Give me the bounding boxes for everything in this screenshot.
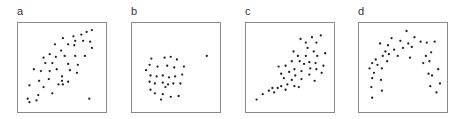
data-point bbox=[426, 41, 428, 43]
data-point bbox=[28, 84, 30, 86]
data-point bbox=[76, 72, 78, 74]
data-point bbox=[402, 47, 404, 49]
data-point bbox=[388, 53, 390, 55]
data-point bbox=[384, 50, 386, 52]
panel-label-d: d bbox=[358, 6, 364, 17]
panel-label-a: a bbox=[17, 6, 23, 17]
data-point bbox=[309, 67, 311, 69]
panel-label-c: c bbox=[245, 6, 251, 17]
data-point bbox=[379, 42, 381, 44]
data-point bbox=[429, 85, 431, 87]
data-point bbox=[381, 67, 383, 69]
scatter-panel-d: d bbox=[358, 0, 458, 119]
data-point bbox=[49, 53, 51, 55]
data-point bbox=[73, 44, 75, 46]
data-point bbox=[284, 89, 286, 91]
data-point bbox=[51, 62, 53, 64]
scatter-panel-a: a bbox=[17, 0, 117, 119]
data-point bbox=[293, 85, 295, 87]
data-point bbox=[154, 82, 156, 84]
data-point bbox=[35, 99, 37, 101]
data-point bbox=[40, 70, 42, 72]
data-point bbox=[437, 68, 439, 70]
data-point bbox=[430, 51, 432, 53]
data-point bbox=[431, 74, 433, 76]
data-point bbox=[156, 65, 158, 67]
data-point bbox=[371, 97, 373, 99]
data-point bbox=[288, 71, 290, 73]
data-point bbox=[306, 47, 308, 49]
data-point bbox=[284, 65, 286, 67]
data-point bbox=[305, 41, 307, 43]
data-point bbox=[148, 64, 150, 66]
data-point bbox=[428, 60, 430, 62]
data-point bbox=[255, 98, 257, 100]
data-point bbox=[268, 89, 270, 91]
data-point bbox=[316, 55, 318, 57]
data-point bbox=[183, 65, 185, 67]
data-point bbox=[145, 69, 147, 71]
data-point bbox=[370, 86, 372, 88]
data-point bbox=[206, 55, 208, 57]
data-point bbox=[298, 86, 300, 88]
data-point bbox=[54, 43, 56, 45]
data-point bbox=[371, 62, 373, 64]
data-point bbox=[386, 60, 388, 62]
data-point bbox=[89, 41, 91, 43]
plot-frame-b bbox=[131, 22, 221, 113]
data-point bbox=[262, 93, 264, 95]
scatter-panel-b: b bbox=[131, 0, 231, 119]
data-point bbox=[305, 55, 307, 57]
data-point bbox=[419, 41, 421, 43]
data-point bbox=[277, 87, 279, 89]
data-point bbox=[164, 86, 166, 88]
data-point bbox=[160, 98, 162, 100]
data-point bbox=[294, 74, 296, 76]
data-point bbox=[320, 34, 322, 36]
data-point bbox=[273, 91, 275, 93]
data-point bbox=[291, 79, 293, 81]
data-point bbox=[33, 68, 35, 70]
data-point bbox=[74, 55, 76, 57]
data-point bbox=[322, 65, 324, 67]
data-point bbox=[308, 61, 310, 63]
data-point bbox=[67, 81, 69, 83]
data-point bbox=[177, 95, 179, 97]
data-point bbox=[88, 97, 90, 99]
data-point bbox=[371, 77, 373, 79]
data-point bbox=[172, 82, 174, 84]
data-point bbox=[37, 94, 39, 96]
data-point bbox=[27, 97, 29, 99]
data-point bbox=[150, 57, 152, 59]
data-point bbox=[397, 55, 399, 57]
data-point bbox=[313, 50, 315, 52]
data-point bbox=[376, 64, 378, 66]
data-point bbox=[84, 55, 86, 57]
data-point bbox=[168, 76, 170, 78]
data-point bbox=[425, 55, 427, 57]
data-point bbox=[179, 82, 181, 84]
data-point bbox=[427, 73, 429, 75]
scatter-plot-d bbox=[359, 23, 447, 112]
data-point bbox=[390, 37, 392, 39]
data-point bbox=[382, 55, 384, 57]
data-point bbox=[380, 79, 382, 81]
data-point bbox=[42, 86, 44, 88]
data-point bbox=[308, 73, 310, 75]
data-point bbox=[61, 80, 63, 82]
data-point bbox=[44, 62, 46, 64]
data-point bbox=[292, 50, 294, 52]
data-point bbox=[300, 78, 302, 80]
data-point bbox=[42, 57, 44, 59]
data-point bbox=[154, 92, 156, 94]
data-point bbox=[315, 41, 317, 43]
data-point bbox=[163, 57, 165, 59]
data-point bbox=[173, 66, 175, 68]
data-point bbox=[373, 72, 375, 74]
data-point bbox=[311, 36, 313, 38]
data-point bbox=[277, 65, 279, 67]
data-point bbox=[162, 74, 164, 76]
data-point bbox=[293, 68, 295, 70]
data-point bbox=[82, 40, 84, 42]
data-point bbox=[56, 68, 58, 70]
